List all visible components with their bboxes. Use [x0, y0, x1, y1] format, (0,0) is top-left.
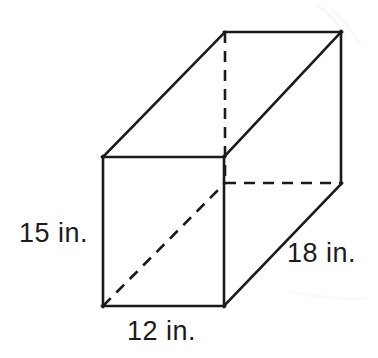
width-dimension-label: 12 in. — [127, 318, 196, 345]
top-face-left-diagonal — [103, 32, 225, 157]
depth-dimension-label: 18 in. — [287, 240, 356, 267]
scan-artifact-bottom — [290, 292, 366, 299]
height-dimension-label: 15 in. — [19, 220, 88, 247]
top-face-right-diagonal — [224, 32, 341, 157]
hidden-edge-bottom-left-diagonal — [103, 183, 225, 306]
scan-artifact — [318, 6, 360, 44]
prism-drawing — [0, 0, 378, 358]
prism-figure: 15 in. 12 in. 18 in. — [0, 0, 378, 358]
